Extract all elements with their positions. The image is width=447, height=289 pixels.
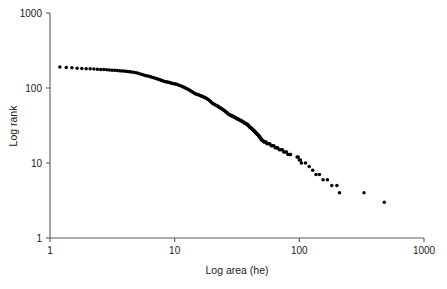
- log-log-rank-size-scatter-plot: 1101001000 1101001000 Log area (he) Log …: [0, 0, 447, 289]
- data-point: [362, 191, 366, 195]
- x-tick-label: 100: [291, 245, 308, 256]
- data-point: [99, 68, 103, 72]
- data-point: [330, 184, 334, 188]
- x-axis-label: Log area (he): [205, 264, 268, 276]
- data-point: [88, 67, 92, 71]
- figure-background: [0, 0, 447, 289]
- data-point: [326, 178, 330, 182]
- x-tick-label: 1000: [413, 245, 436, 256]
- data-point: [304, 161, 308, 165]
- x-tick-label: 10: [169, 245, 181, 256]
- data-point: [335, 184, 339, 188]
- data-point: [75, 66, 79, 70]
- data-point: [321, 178, 325, 182]
- y-tick-label: 100: [25, 83, 42, 94]
- data-point: [314, 173, 318, 177]
- data-point: [307, 165, 311, 169]
- data-point: [92, 67, 96, 71]
- data-point: [84, 67, 88, 71]
- x-tick-label: 1: [47, 245, 53, 256]
- y-tick-label: 1: [36, 233, 42, 244]
- data-point: [299, 158, 303, 162]
- data-point: [338, 191, 342, 195]
- data-point: [311, 169, 315, 173]
- y-axis-label: Log rank: [7, 105, 19, 147]
- data-point: [58, 65, 62, 69]
- data-point: [96, 67, 100, 71]
- y-tick-label: 10: [31, 158, 43, 169]
- data-point: [300, 161, 304, 165]
- data-point: [289, 153, 293, 157]
- chart-figure: 1101001000 1101001000 Log area (he) Log …: [0, 0, 447, 289]
- data-point: [70, 66, 74, 70]
- data-point: [383, 200, 387, 204]
- data-point: [318, 173, 322, 177]
- y-tick-label: 1000: [20, 8, 43, 19]
- data-point: [65, 66, 69, 70]
- data-point: [80, 67, 84, 71]
